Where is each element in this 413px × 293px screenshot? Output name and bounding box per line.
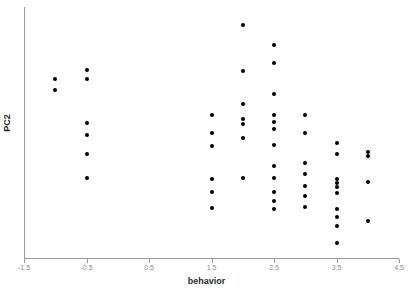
data-point [241,23,245,27]
data-point [303,161,307,165]
x-tick-label: -0.5 [67,264,107,271]
x-tick-label: 2.5 [254,264,294,271]
x-tick-label: 3.5 [317,264,357,271]
data-point [241,122,245,126]
scatter-chart: PC2 -1.5-0.50.51.52.53.54.5 behavior [0,0,413,293]
plot-area [24,7,399,258]
data-point [303,113,307,117]
data-point [210,144,214,148]
x-tick-mark [274,259,275,263]
data-point [272,61,276,65]
data-point [241,176,245,180]
data-point [272,190,276,194]
data-point [272,43,276,47]
data-point [241,102,245,106]
data-point [272,113,276,117]
data-point [272,127,276,131]
x-tick-label: -1.5 [4,264,44,271]
data-point [272,207,276,211]
data-point [85,133,89,137]
data-point [366,180,370,184]
data-point [241,136,245,140]
data-point [210,206,214,210]
data-point [303,205,307,209]
data-point [303,194,307,198]
data-point [85,77,89,81]
data-point [335,185,339,189]
data-point [335,207,339,211]
data-point [272,120,276,124]
data-point [53,77,57,81]
data-point [210,177,214,181]
x-tick-label: 0.5 [129,264,169,271]
x-tick-mark [399,259,400,263]
data-point [210,131,214,135]
x-tick-mark [24,259,25,263]
data-point [85,176,89,180]
data-point [303,172,307,176]
x-tick-label: 4.5 [379,264,413,271]
data-point [85,68,89,72]
data-point [53,88,57,92]
data-point [335,224,339,228]
data-point [335,215,339,219]
data-point [335,191,339,195]
data-point [85,152,89,156]
data-point [335,241,339,245]
data-point [366,154,370,158]
data-point [335,152,339,156]
data-point [303,131,307,135]
x-axis-title: behavior [0,276,413,286]
data-point [210,190,214,194]
x-tick-mark [212,259,213,263]
x-tick-mark [149,259,150,263]
data-point [210,113,214,117]
data-point [366,219,370,223]
y-axis-title: PC2 [2,103,12,143]
x-tick-label: 1.5 [192,264,232,271]
data-point [272,164,276,168]
data-point [272,199,276,203]
x-tick-mark [87,259,88,263]
data-point [272,176,276,180]
data-point [303,184,307,188]
data-point [241,117,245,121]
data-point [272,92,276,96]
data-point [335,141,339,145]
data-point [241,69,245,73]
data-point [272,143,276,147]
x-tick-mark [337,259,338,263]
data-point [85,121,89,125]
